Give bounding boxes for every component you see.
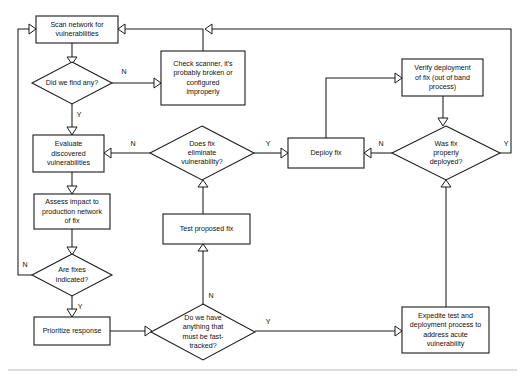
node-label-test_fix: Test proposed fix — [180, 225, 234, 233]
node-label-scan: Scan network forvulnerabilities — [50, 21, 104, 38]
node-label-are_fixes: Are fixesindicated? — [56, 266, 88, 283]
node-scan[interactable]: Scan network forvulnerabilities — [36, 16, 118, 43]
arrowhead-did-find-yes — [67, 127, 77, 135]
arrowhead-prioritize-to-fast-track — [145, 326, 152, 336]
flowchart-canvas: check scanner --> evaluate --> evaluate … — [0, 0, 525, 379]
nodes-layer: Scan network forvulnerabilitiesDid we fi… — [32, 16, 500, 360]
edge-label-does-fix-no: N — [130, 140, 135, 148]
arrowhead-fast-track-no — [198, 244, 208, 251]
node-label-deploy_fix: Deploy fix — [310, 149, 342, 157]
node-does_fix[interactable]: Does fixeliminatevulnerability? — [150, 126, 254, 180]
node-are_fixes[interactable]: Are fixesindicated? — [32, 254, 112, 296]
edge-label-was-fix-yes: Y — [504, 140, 509, 148]
edge-label-are-fixes-no: N — [22, 261, 27, 269]
arrowhead-did-find-no — [154, 78, 161, 88]
node-did_find[interactable]: Did we find any? — [32, 62, 112, 104]
flowchart-diagram: check scanner --> evaluate --> evaluate … — [0, 0, 525, 379]
edge-label-are-fixes-yes: Y — [78, 303, 83, 311]
edge-deploy-to-verify — [326, 78, 395, 138]
node-expedite[interactable]: Expedite test anddeployment process toad… — [402, 307, 489, 353]
arrowhead-was-fix-no — [364, 148, 371, 158]
edge-label-did-find-yes: Y — [77, 111, 82, 119]
arrowhead-evaluate-to-assess — [67, 186, 77, 194]
edge-label-did-find-no: N — [121, 68, 126, 76]
edge-label-fast-track-no: N — [208, 292, 213, 300]
node-prioritize[interactable]: Prioritize response — [34, 317, 110, 345]
arrowhead-was-fix-yes — [205, 24, 212, 34]
edge-label-fast-track-yes: Y — [266, 318, 271, 326]
node-deploy_fix[interactable]: Deploy fix — [288, 138, 364, 168]
node-label-prioritize: Prioritize response — [43, 327, 102, 335]
arrowhead-fast-track-yes — [395, 326, 402, 336]
node-test_fix[interactable]: Test proposed fix — [163, 214, 250, 244]
node-was_fix[interactable]: Was fixproperlydeployed? — [392, 126, 500, 180]
edge-check-scanner-to-scan — [125, 29, 203, 51]
node-verify[interactable]: Verify deploymentof fix (out of bandproc… — [402, 59, 483, 96]
arrowhead-are-fixes-yes — [67, 309, 77, 317]
edge-are-fixes-no-to-scan — [18, 29, 32, 275]
edge-label-does-fix-yes: Y — [266, 140, 271, 148]
edge-label-was-fix-no: N — [378, 140, 383, 148]
arrowhead-expedite-to-was-fix — [441, 180, 451, 187]
arrowhead-test-fix-to-does-fix — [198, 180, 208, 187]
arrowhead-verify-to-was-fix — [438, 118, 448, 126]
node-evaluate[interactable]: Evaluatediscoveredvulnerabilities — [33, 135, 104, 172]
node-check_scanner[interactable]: Check scanner, it'sprobably broken orcon… — [161, 51, 245, 105]
node-label-did_find: Did we find any? — [46, 79, 98, 87]
arrowhead-are-fixes-no — [29, 24, 36, 34]
arrowhead-check-scanner-to-scan — [118, 24, 125, 34]
arrowhead-deploy-to-verify — [395, 73, 402, 83]
node-fast_track[interactable]: Do we haveanything thatmust be fast-trac… — [151, 304, 255, 360]
node-assess[interactable]: Assess impact toproduction networkof fix — [34, 194, 110, 229]
arrowhead-does-fix-yes — [281, 148, 288, 158]
arrowhead-does-fix-no — [104, 148, 111, 158]
